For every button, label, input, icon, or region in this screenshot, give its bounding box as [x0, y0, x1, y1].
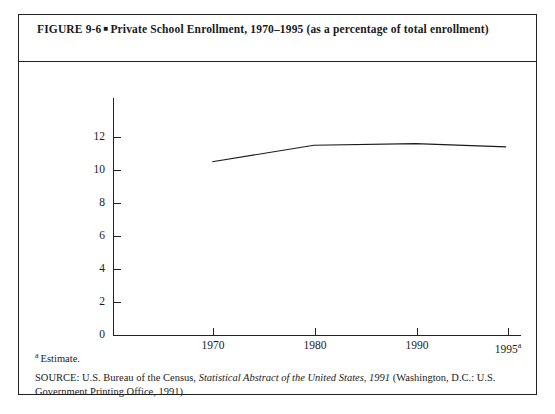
plot-area: 12 10 8 6 4 2 0 1970 1980 1990	[19, 62, 536, 349]
source-prefix: SOURCE: U.S. Bureau of the Census,	[35, 372, 199, 383]
source-publication-title: Statistical Abstract of the United State…	[199, 372, 390, 383]
figure-title-main: Private School Enrollment, 1970–1995 (as…	[110, 23, 488, 35]
source-note: SOURCE: U.S. Bureau of the Census, Stati…	[35, 371, 520, 399]
figure-notes: aEstimate. SOURCE: U.S. Bureau of the Ce…	[19, 349, 536, 399]
figure-title: FIGURE 9-6■Private School Enrollment, 19…	[37, 21, 518, 37]
figure-number: FIGURE 9-6	[37, 23, 101, 35]
series-line-chart	[19, 62, 536, 349]
footnote-text: Estimate.	[41, 353, 80, 364]
footnote: aEstimate.	[35, 349, 520, 365]
figure-box: FIGURE 9-6■Private School Enrollment, 19…	[18, 14, 537, 395]
figure-title-band: FIGURE 9-6■Private School Enrollment, 19…	[19, 15, 536, 62]
series-line-private-enrollment	[212, 144, 506, 162]
